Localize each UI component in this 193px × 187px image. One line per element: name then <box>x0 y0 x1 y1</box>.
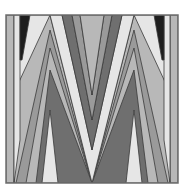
right-edge-strip <box>170 15 178 183</box>
zigzag-pattern-artwork <box>0 0 193 187</box>
left-edge-strip <box>6 15 14 183</box>
